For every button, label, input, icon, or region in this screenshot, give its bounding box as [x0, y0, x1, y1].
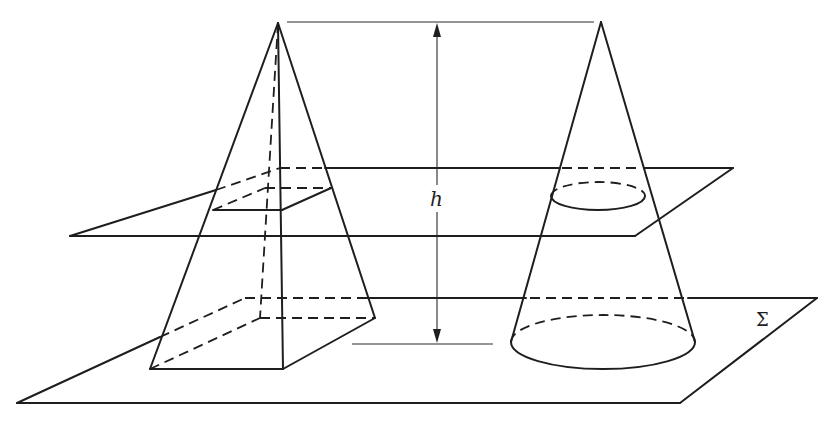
- height-dimension: h: [287, 22, 594, 344]
- arrow-down-icon: [433, 329, 441, 343]
- base-plane-sigma: [17, 298, 817, 403]
- arrow-up-icon: [433, 23, 441, 37]
- cutting-plane: [70, 168, 733, 236]
- cavalieri-diagram: h Σ: [0, 0, 831, 428]
- pyramid: [150, 23, 375, 369]
- pyramid-cross-section: [213, 188, 331, 210]
- cone-cross-section: [551, 182, 645, 210]
- height-label: h: [430, 187, 443, 211]
- plane-sigma-label: Σ: [756, 309, 769, 330]
- cone: [511, 22, 695, 369]
